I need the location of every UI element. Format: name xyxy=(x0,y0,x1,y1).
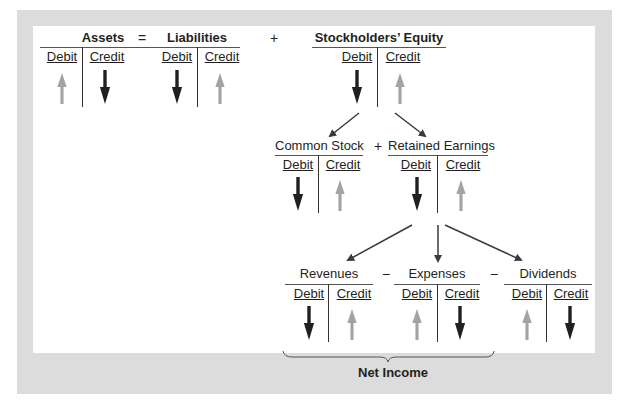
account-title-expenses: Expenses xyxy=(394,266,480,281)
debit-label: Debit xyxy=(400,286,434,301)
net-income-label: Net Income xyxy=(358,365,428,380)
account-title-retained-earnings: Retained Earnings xyxy=(388,138,488,153)
t-account-top-line xyxy=(285,284,373,285)
t-account-top-line xyxy=(504,284,592,285)
debit-label: Debit xyxy=(292,286,326,301)
t-account-divider xyxy=(437,155,438,213)
minus-sign: − xyxy=(486,266,502,282)
credit-label: Credit xyxy=(443,157,483,172)
t-account-divider xyxy=(437,284,438,342)
decrease-down-arrow-icon xyxy=(454,306,466,340)
debit-label: Debit xyxy=(510,286,544,301)
plus-sign: + xyxy=(370,138,386,154)
decrease-down-arrow-icon xyxy=(292,177,304,211)
increase-up-arrow-icon xyxy=(411,309,423,340)
minus-sign: − xyxy=(378,266,394,282)
credit-label: Credit xyxy=(551,286,591,301)
t-account-divider xyxy=(318,155,319,213)
account-title-common-stock: Common Stock xyxy=(275,138,363,153)
decrease-down-arrow-icon xyxy=(411,177,423,211)
account-title-revenues: Revenues xyxy=(285,266,373,281)
credit-label: Credit xyxy=(323,157,363,172)
credit-label: Credit xyxy=(442,286,482,301)
decrease-down-arrow-icon xyxy=(564,306,576,340)
decrease-down-arrow-icon xyxy=(303,306,315,340)
t-account-divider xyxy=(546,284,547,342)
t-account-divider xyxy=(328,284,329,342)
increase-up-arrow-icon xyxy=(455,180,467,211)
increase-up-arrow-icon xyxy=(521,309,533,340)
account-title-dividends: Dividends xyxy=(504,266,592,281)
increase-up-arrow-icon xyxy=(334,180,346,211)
debit-label: Debit xyxy=(399,157,433,172)
connector-lines xyxy=(0,0,622,403)
t-account-top-line xyxy=(275,155,363,156)
increase-up-arrow-icon xyxy=(346,309,358,340)
t-account-top-line xyxy=(388,155,488,156)
credit-label: Credit xyxy=(334,286,374,301)
debit-label: Debit xyxy=(281,157,315,172)
